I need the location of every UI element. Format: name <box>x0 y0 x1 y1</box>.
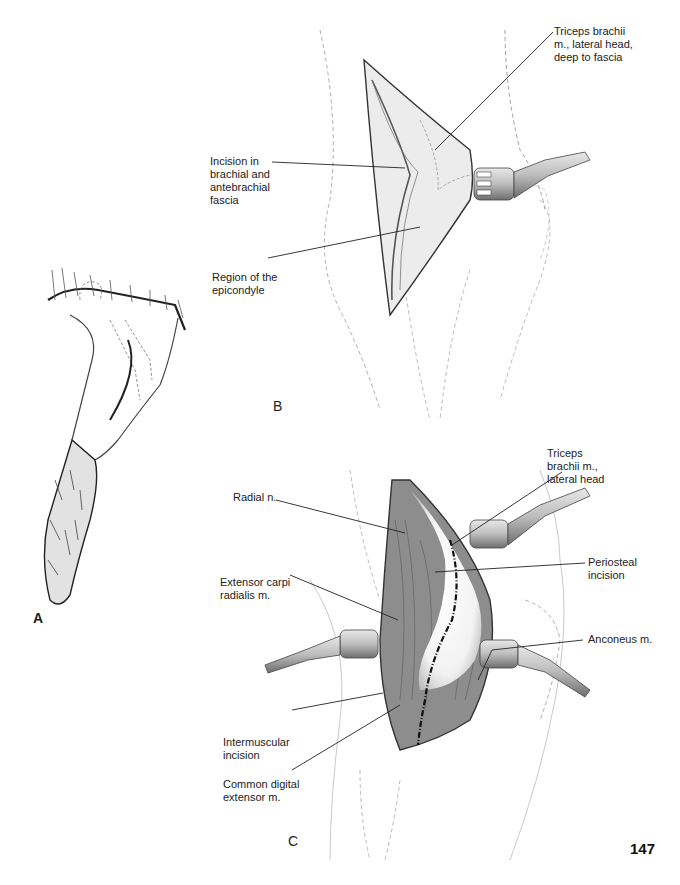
retractor-upper-right <box>470 488 590 548</box>
anatomical-illustration <box>0 0 680 885</box>
label-intermuscular-incision: Intermuscular incision <box>223 736 290 762</box>
panel-a-letter: A <box>33 610 43 626</box>
label-anconeus: Anconeus m. <box>588 633 652 646</box>
panel-a-limb-drawing <box>44 268 185 604</box>
label-triceps-lateral-head-deep: Triceps brachii m., lateral head, deep t… <box>554 25 633 64</box>
label-common-digital-extensor: Common digital extensor m. <box>223 778 299 804</box>
label-triceps-lateral-head: Triceps brachii m., lateral head <box>547 447 605 486</box>
retractor-lower-right <box>480 640 590 697</box>
retractor-left <box>265 630 378 673</box>
label-epicondyle: Region of the epicondyle <box>212 271 277 297</box>
label-radial-nerve: Radial n. <box>233 491 276 504</box>
panel-c-letter: C <box>288 833 298 849</box>
label-incision-fascia: Incision in brachial and antebrachial fa… <box>210 155 270 207</box>
panel-b-letter: B <box>273 398 282 414</box>
page-number: 147 <box>630 840 655 857</box>
label-extensor-carpi-radialis: Extensor carpi radialis m. <box>220 576 290 602</box>
label-periosteal-incision: Periosteal incision <box>588 556 637 582</box>
panel-b-drawing <box>320 30 590 420</box>
panel-c-drawing <box>265 470 590 860</box>
